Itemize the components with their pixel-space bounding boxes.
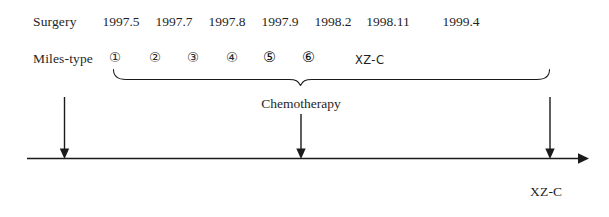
arrow-xzc-endpoint (545, 97, 554, 159)
arrow-chemotherapy (296, 114, 305, 159)
arrow-surgery (60, 97, 69, 159)
timeline-axis-and-arrows (0, 0, 609, 217)
time-axis (27, 153, 589, 164)
endpoint-label-xzc: XZ-C (530, 184, 562, 200)
timeline-diagram: Surgery 1997.5 1997.7 1997.8 1997.9 1998… (0, 0, 609, 217)
